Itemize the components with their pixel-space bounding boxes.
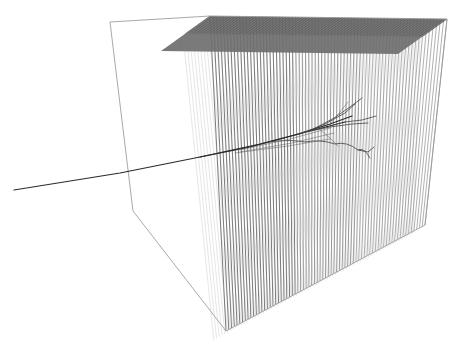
wire-plane-line-back [190,35,220,336]
track-incoming-beam-track [14,122,345,190]
wire-plane-line [422,19,443,227]
wire-plane-line [367,18,378,256]
wire-plane-line [364,18,374,257]
scene-svg [0,0,461,347]
particle-tracks [14,98,376,190]
wire-plane-line [317,17,318,282]
wire-plane-line [419,19,440,228]
detector-box-edge [425,19,447,225]
wire-plane-line-back [186,35,216,338]
wire-plane-line [314,17,315,284]
wire-plane-line [320,17,322,281]
wire-plane-line-back [193,35,222,335]
event-display-canvas [0,0,461,347]
detector-box-edge [133,211,226,331]
wire-plane-line-back [196,35,225,333]
detector-box-edge [110,16,210,22]
wire-plane-line-back [183,35,214,340]
wire-plane-curtain [183,16,447,340]
wire-plane-line [339,18,345,271]
wire-plane-line [296,17,298,293]
wire-plane-line [323,17,325,279]
detector-box-edge [110,22,133,211]
